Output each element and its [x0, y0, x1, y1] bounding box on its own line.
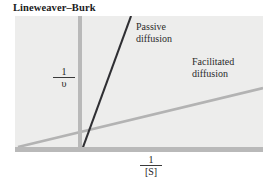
y-axis-numerator: 1: [53, 66, 75, 78]
facilitated-diffusion-label-line1: Facilitated: [192, 56, 234, 68]
x-axis-denominator: [S]: [140, 166, 162, 177]
passive-diffusion-label-line2: diffusion: [136, 33, 172, 45]
x-axis-label: 1 [S]: [140, 154, 162, 177]
facilitated-diffusion-label-line2: diffusion: [192, 68, 234, 80]
x-axis-numerator: 1: [140, 154, 162, 166]
passive-diffusion-label-line1: Passive: [136, 21, 172, 33]
y-axis: [78, 16, 82, 150]
page-title: Lineweaver–Burk: [13, 1, 96, 14]
y-axis-label: 1 υ: [53, 66, 75, 89]
x-axis: [15, 147, 263, 152]
passive-diffusion-label: Passive diffusion: [136, 21, 172, 45]
y-axis-denominator: υ: [53, 78, 75, 89]
lineweaver-burk-figure: Lineweaver–Burk 1 υ 1 [S] Passive diffus…: [0, 0, 268, 182]
facilitated-diffusion-label: Facilitated diffusion: [192, 56, 234, 80]
facilitated-diffusion-line: [18, 88, 263, 147]
passive-diffusion-line: [82, 16, 131, 150]
